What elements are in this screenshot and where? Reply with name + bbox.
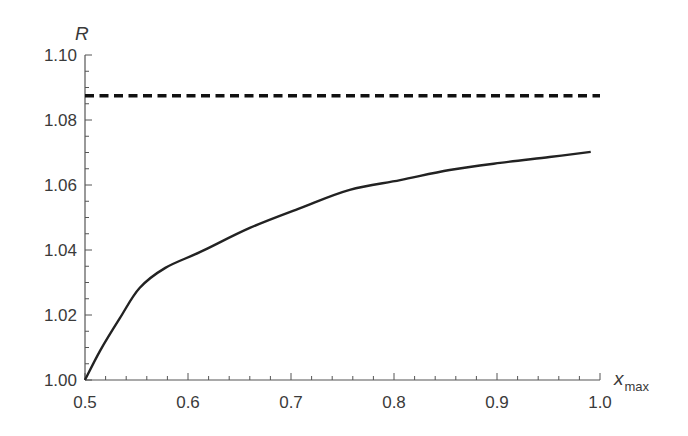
x-axis-label: xmax: [613, 368, 650, 394]
x-tick-label: 0.7: [279, 393, 303, 412]
y-tick-label: 1.06: [44, 176, 77, 195]
line-chart: 0.50.60.70.80.91.01.001.021.041.061.081.…: [0, 0, 688, 436]
axes: 0.50.60.70.80.91.01.001.021.041.061.081.…: [44, 23, 650, 412]
x-tick-label: 0.8: [382, 393, 406, 412]
y-tick-label: 1.00: [44, 371, 77, 390]
x-tick-label: 0.9: [485, 393, 509, 412]
x-tick-label: 1.0: [588, 393, 612, 412]
x-tick-label: 0.5: [73, 393, 97, 412]
y-tick-label: 1.02: [44, 306, 77, 325]
y-tick-label: 1.08: [44, 111, 77, 130]
y-axis-label: R: [75, 23, 89, 44]
y-tick-label: 1.10: [44, 46, 77, 65]
plot-area: [85, 96, 600, 380]
x-tick-label: 0.6: [176, 393, 200, 412]
y-tick-label: 1.04: [44, 241, 77, 260]
solid-curve-line: [85, 152, 591, 380]
